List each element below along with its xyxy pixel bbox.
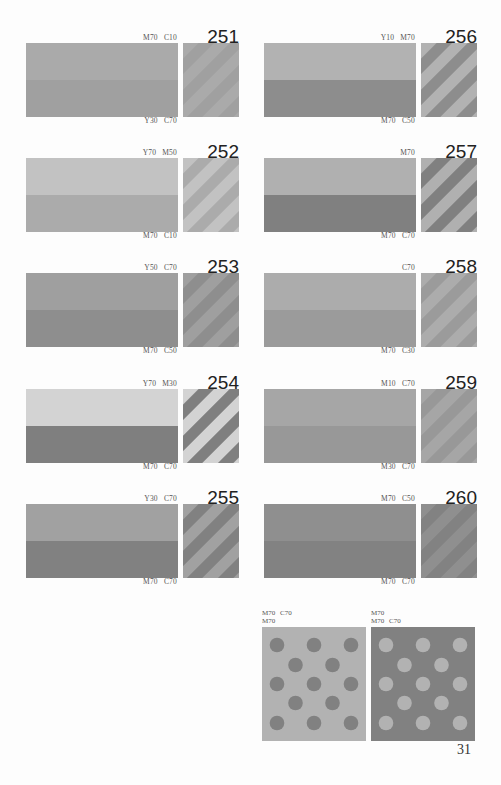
bar-bottom-half	[264, 426, 416, 463]
dot	[453, 716, 468, 731]
dot	[344, 638, 359, 653]
bar-bottom-half	[26, 426, 178, 463]
dot-pattern-box	[371, 627, 475, 741]
diagonal-stripe-swatch	[183, 389, 239, 463]
color-sample-256: Y10 M70 256 M70 C50	[264, 35, 477, 135]
dot-pattern-svg	[262, 627, 366, 741]
dot-pattern-sample-2: M70 M70 C70	[371, 609, 475, 741]
bar-bottom-half	[26, 310, 178, 347]
bar-top-half	[26, 273, 178, 310]
bar-top-half	[26, 504, 178, 541]
top-color-label: Y50 C70	[144, 263, 177, 272]
stripe-swatch	[421, 504, 477, 578]
top-color-label: Y70 M50	[143, 148, 177, 157]
stripe-swatch	[183, 389, 239, 463]
diagonal-stripe-swatch	[183, 273, 239, 347]
two-tone-bar	[264, 273, 416, 347]
color-sample-254: Y70 M30 254 M70 C70	[26, 381, 239, 481]
dot	[453, 677, 468, 692]
two-tone-bar	[26, 389, 178, 463]
top-color-label: Y70 M30	[143, 379, 177, 388]
dot	[379, 638, 394, 653]
dot-pattern-label: M70 C70 M70	[262, 609, 366, 627]
color-sample-253: Y50 C70 253 M70 C50	[26, 265, 239, 365]
dot	[397, 696, 412, 711]
stripe-swatch	[183, 158, 239, 232]
dot	[270, 638, 285, 653]
dot	[288, 658, 303, 673]
color-sample-258: C70 258 M70 C30	[264, 265, 477, 365]
two-tone-bar	[264, 389, 416, 463]
bar-bottom-half	[264, 80, 416, 117]
dot-pattern-label: M70 M70 C70	[371, 609, 475, 627]
bar-top-half	[26, 158, 178, 195]
top-color-label: M70	[400, 148, 415, 157]
color-sample-257: M70 257 M70 C70	[264, 150, 477, 250]
bar-top-half	[264, 273, 416, 310]
dot	[416, 638, 431, 653]
color-sample-259: M10 C70 259 M30 C70	[264, 381, 477, 481]
stripe-swatch	[183, 273, 239, 347]
dot	[453, 638, 468, 653]
two-tone-bar	[26, 273, 178, 347]
two-tone-bar	[26, 43, 178, 117]
diagonal-stripe-swatch	[421, 389, 477, 463]
stripe-swatch	[183, 43, 239, 117]
color-sample-255: Y30 C70 255 M70 C70	[26, 496, 239, 596]
dot	[434, 696, 449, 711]
diagonal-stripe-swatch	[183, 43, 239, 117]
bottom-color-label: Y30 C70	[144, 116, 177, 125]
bar-bottom-half	[26, 195, 178, 232]
dot	[307, 716, 322, 731]
bar-top-half	[264, 43, 416, 80]
page-number: 31	[457, 742, 471, 758]
bottom-color-label: M70 C70	[143, 577, 177, 586]
bar-bottom-half	[264, 195, 416, 232]
dot-pattern-label-line1: M70	[371, 609, 475, 617]
dot	[379, 677, 394, 692]
diagonal-stripe-swatch	[421, 504, 477, 578]
two-tone-bar	[264, 504, 416, 578]
diagonal-stripe-swatch	[183, 504, 239, 578]
bottom-color-label: M70 C70	[381, 577, 415, 586]
dot	[288, 696, 303, 711]
dot-pattern-box	[262, 627, 366, 741]
color-sample-260: M70 C50 260 M70 C70	[264, 496, 477, 596]
dot	[344, 716, 359, 731]
color-sample-251: M70 C10 251 Y30 C70	[26, 35, 239, 135]
two-tone-bar	[26, 504, 178, 578]
dot-pattern-sample-1: M70 C70 M70	[262, 609, 366, 741]
dot	[434, 658, 449, 673]
dot-pattern-label-line2: M70	[262, 617, 366, 625]
dot	[344, 677, 359, 692]
bottom-color-label: M70 C50	[143, 346, 177, 355]
top-color-label: Y10 M70	[381, 33, 415, 42]
top-color-label: M70 C10	[143, 33, 177, 42]
stripe-swatch	[183, 504, 239, 578]
dot	[270, 677, 285, 692]
bar-bottom-half	[264, 310, 416, 347]
two-tone-bar	[264, 158, 416, 232]
dot	[325, 658, 340, 673]
bottom-color-label: M70 C70	[381, 231, 415, 240]
bar-top-half	[26, 43, 178, 80]
diagonal-stripe-swatch	[421, 43, 477, 117]
diagonal-stripe-swatch	[421, 273, 477, 347]
bar-top-half	[264, 504, 416, 541]
bottom-color-label: M30 C70	[381, 462, 415, 471]
dot	[270, 716, 285, 731]
dot	[416, 716, 431, 731]
bottom-color-label: M70 C50	[381, 116, 415, 125]
dot	[397, 658, 412, 673]
bar-bottom-half	[264, 541, 416, 578]
dot-pattern-label-line2: M70 C70	[371, 617, 475, 625]
dot	[379, 716, 394, 731]
stripe-swatch	[421, 158, 477, 232]
diagonal-stripe-swatch	[183, 158, 239, 232]
top-color-label: C70	[402, 263, 415, 272]
bottom-color-label: M70 C10	[143, 231, 177, 240]
bar-top-half	[26, 389, 178, 426]
color-sample-252: Y70 M50 252 M70 C10	[26, 150, 239, 250]
bottom-color-label: M70 C70	[143, 462, 177, 471]
dot	[307, 638, 322, 653]
